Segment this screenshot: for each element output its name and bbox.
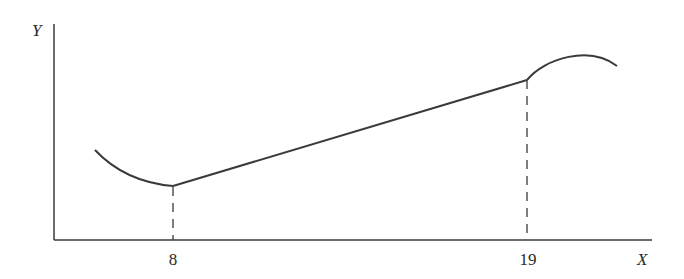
linear-segment <box>173 80 527 186</box>
right-curve <box>527 55 617 80</box>
tick-label-19: 19 <box>520 250 537 269</box>
left-curve <box>95 150 173 186</box>
chart-canvas: Y X 8 19 <box>0 0 684 279</box>
tick-label-8: 8 <box>169 250 178 269</box>
x-axis-label: X <box>636 250 648 269</box>
y-axis-label: Y <box>32 21 43 40</box>
